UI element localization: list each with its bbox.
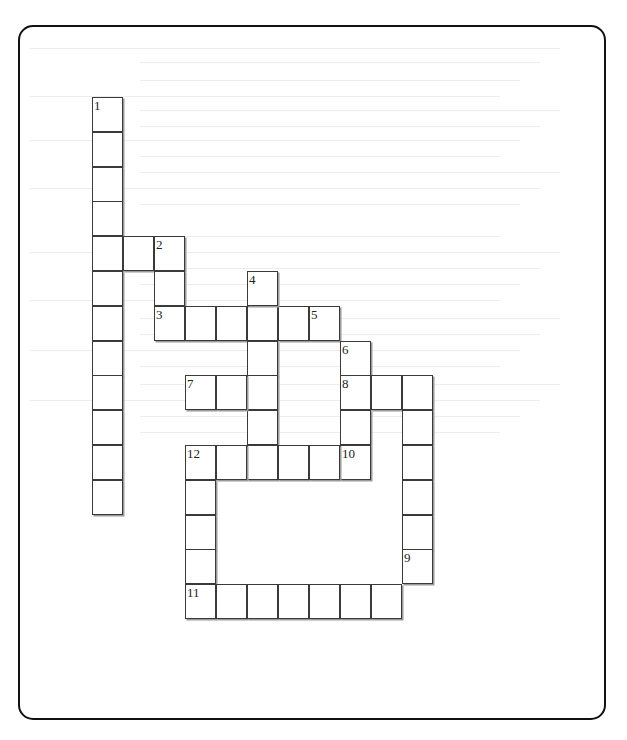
clue-number: 11	[187, 586, 200, 599]
crossword-cell[interactable]	[185, 306, 216, 341]
crossword-cell[interactable]	[309, 584, 340, 619]
clue-number: 3	[156, 308, 163, 321]
crossword-cell[interactable]	[371, 375, 402, 410]
crossword-cell[interactable]	[247, 410, 278, 445]
crossword-cell[interactable]	[402, 480, 433, 515]
crossword-cell[interactable]	[216, 306, 247, 341]
crossword-cell[interactable]	[402, 445, 433, 480]
crossword-cell[interactable]	[371, 584, 402, 619]
crossword-cell[interactable]	[278, 445, 309, 480]
crossword-cell[interactable]	[92, 410, 123, 445]
crossword-cell[interactable]	[185, 480, 216, 515]
crossword-cell[interactable]	[92, 480, 123, 515]
crossword-cell[interactable]: 10	[340, 445, 371, 480]
crossword-cell[interactable]: 1	[92, 97, 123, 132]
clue-number: 12	[187, 447, 200, 460]
crossword-cell[interactable]	[92, 306, 123, 341]
clue-number: 2	[156, 238, 163, 251]
crossword-cell[interactable]: 7	[185, 375, 216, 410]
crossword-cell[interactable]	[247, 445, 278, 480]
crossword-cell[interactable]	[92, 132, 123, 167]
crossword-cell[interactable]	[92, 271, 123, 306]
crossword-cell[interactable]	[92, 341, 123, 376]
crossword-cell[interactable]	[247, 341, 278, 376]
crossword-cell[interactable]: 4	[247, 271, 278, 306]
crossword-cell[interactable]	[216, 375, 247, 410]
crossword-cell[interactable]: 9	[402, 549, 433, 584]
crossword-cell[interactable]: 5	[309, 306, 340, 341]
crossword-cell[interactable]: 12	[185, 445, 216, 480]
crossword-cell[interactable]	[340, 584, 371, 619]
crossword-cell[interactable]	[278, 306, 309, 341]
clue-number: 9	[404, 551, 411, 564]
crossword-cell[interactable]	[247, 375, 278, 410]
crossword-cell[interactable]	[154, 271, 185, 306]
crossword-cell[interactable]	[278, 584, 309, 619]
crossword-cell[interactable]	[247, 584, 278, 619]
crossword-cell[interactable]: 2	[154, 236, 185, 271]
crossword-cell[interactable]: 6	[340, 341, 371, 376]
crossword-cell[interactable]	[123, 236, 154, 271]
crossword-cell[interactable]	[402, 410, 433, 445]
crossword-cell[interactable]	[92, 445, 123, 480]
crossword-cell[interactable]	[402, 375, 433, 410]
clue-number: 5	[311, 308, 318, 321]
crossword-cell[interactable]	[92, 201, 123, 236]
crossword-cell[interactable]	[92, 236, 123, 271]
crossword-cell[interactable]	[92, 167, 123, 202]
crossword-cell[interactable]: 11	[185, 584, 216, 619]
clue-number: 1	[94, 99, 101, 112]
crossword-cell[interactable]	[340, 410, 371, 445]
crossword-grid: 123546810791211	[0, 0, 627, 740]
crossword-cell[interactable]	[402, 515, 433, 550]
clue-number: 10	[342, 447, 355, 460]
crossword-cell[interactable]	[185, 549, 216, 584]
clue-number: 4	[249, 273, 256, 286]
clue-number: 8	[342, 377, 349, 390]
clue-number: 7	[187, 377, 194, 390]
crossword-cell[interactable]	[216, 584, 247, 619]
crossword-cell[interactable]	[247, 306, 278, 341]
clue-number: 6	[342, 343, 349, 356]
crossword-cell[interactable]	[92, 375, 123, 410]
crossword-cell[interactable]	[309, 445, 340, 480]
crossword-cell[interactable]	[185, 515, 216, 550]
crossword-cell[interactable]: 8	[340, 375, 371, 410]
crossword-cell[interactable]	[216, 445, 247, 480]
crossword-cell[interactable]: 3	[154, 306, 185, 341]
